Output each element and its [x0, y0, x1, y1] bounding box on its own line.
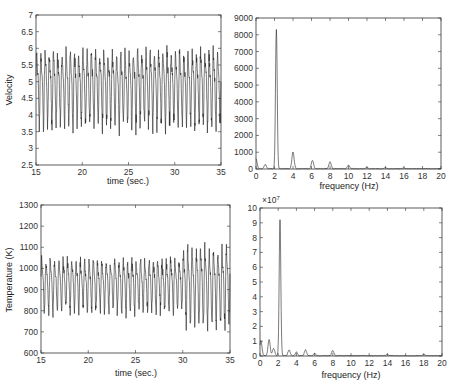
x-tick-label: 18: [419, 358, 429, 368]
y-tick-label: 2000: [234, 130, 253, 140]
y-tick-label: 4.5: [21, 93, 33, 103]
x-tick-label: 4: [294, 358, 299, 368]
x-tick-label: 18: [418, 171, 428, 181]
temperature-spectrum-plot: 02468101214161820012345678910: [248, 203, 447, 368]
x-tick-label: 30: [170, 167, 180, 177]
y-tick-label: 7: [28, 10, 33, 20]
y-tick-label: 7000: [234, 47, 253, 57]
x-tick-label: 6: [312, 358, 317, 368]
temperature-plot: 15202530356007008009001000110012001300: [19, 200, 235, 365]
y-tick-label: 2.5: [21, 160, 33, 170]
y-tick-label: 3: [28, 143, 33, 153]
y-tick-label: 1300: [19, 200, 38, 210]
y-tick-label: 1100: [20, 242, 39, 252]
y-tick-label: 6: [28, 43, 33, 53]
y-tick-label: 2: [252, 321, 257, 331]
x-tick-label: 14: [381, 171, 391, 181]
x-tick-label: 0: [254, 171, 259, 181]
data-line: [36, 45, 221, 136]
y-tick-label: 8000: [234, 30, 253, 40]
x-tick-label: 0: [258, 358, 263, 368]
y-tick-label: 4: [28, 110, 33, 120]
y-tick-label: 900: [24, 285, 38, 295]
y-tick-label: 4: [252, 292, 257, 302]
data-line: [256, 30, 441, 170]
y-tick-label: 5.5: [21, 60, 33, 70]
y-tick-label: 10: [248, 203, 258, 213]
x-tick-label: 35: [216, 167, 226, 177]
y-tick-label: 3.5: [21, 127, 33, 137]
data-line: [41, 242, 230, 331]
x-tick-label: 12: [362, 171, 372, 181]
y-tick-label: 1200: [19, 221, 38, 231]
x-tick-label: 8: [328, 171, 333, 181]
axes-box: [260, 208, 442, 356]
temperature-spectrum-multiplier: ×107: [262, 195, 280, 205]
x-tick-label: 8: [330, 358, 335, 368]
x-tick-label: 25: [131, 355, 141, 365]
y-tick-label: 5000: [234, 80, 253, 90]
figure: 15202530352.533.544.555.566.57 024681012…: [0, 0, 453, 390]
velocity-plot: 15202530352.533.544.555.566.57: [21, 10, 226, 177]
axes-box: [256, 18, 441, 169]
x-tick-label: 20: [78, 167, 88, 177]
x-tick-label: 2: [276, 358, 281, 368]
velocity-spectrum-xlabel: frequency (Hz): [319, 181, 378, 191]
y-tick-label: 9: [252, 218, 257, 228]
y-tick-label: 3: [252, 307, 257, 317]
x-tick-label: 16: [401, 358, 411, 368]
x-tick-label: 6: [309, 171, 314, 181]
velocity-ylabel: Velocity: [4, 74, 14, 106]
y-tick-label: 700: [24, 327, 38, 337]
x-tick-label: 20: [437, 358, 447, 368]
y-tick-label: 0: [248, 164, 253, 174]
y-tick-label: 4000: [234, 97, 253, 107]
y-tick-label: 6000: [234, 63, 253, 73]
y-tick-label: 7: [252, 247, 257, 257]
data-line: [260, 220, 442, 356]
y-tick-label: 6: [252, 262, 257, 272]
x-tick-label: 16: [399, 171, 409, 181]
y-tick-label: 8: [252, 233, 257, 243]
x-tick-label: 4: [291, 171, 296, 181]
y-tick-label: 5: [252, 277, 257, 287]
y-tick-label: 0: [252, 351, 257, 361]
y-tick-label: 3000: [234, 114, 253, 124]
y-tick-label: 600: [24, 348, 38, 358]
y-tick-label: 1: [252, 336, 257, 346]
y-tick-label: 1000: [234, 147, 253, 157]
x-tick-label: 10: [346, 358, 356, 368]
y-tick-label: 1000: [19, 263, 38, 273]
y-tick-label: 5: [28, 77, 33, 87]
x-tick-label: 20: [436, 171, 446, 181]
y-tick-label: 9000: [234, 13, 253, 23]
x-tick-label: 14: [383, 358, 393, 368]
x-tick-label: 2: [272, 171, 277, 181]
x-tick-label: 30: [178, 355, 188, 365]
velocity-xlabel: time (sec.): [107, 176, 149, 186]
x-tick-label: 35: [225, 355, 235, 365]
x-tick-label: 20: [84, 355, 94, 365]
temperature-ylabel: Temperature (K): [4, 247, 14, 312]
x-tick-label: 10: [344, 171, 354, 181]
temperature-xlabel: time (sec.): [115, 368, 157, 378]
temperature-spectrum-xlabel: frequency (Hz): [321, 370, 380, 380]
y-tick-label: 800: [24, 306, 38, 316]
x-tick-label: 12: [364, 358, 374, 368]
y-tick-label: 6.5: [21, 27, 33, 37]
velocity-spectrum-plot: 0246810121416182001000200030004000500060…: [234, 13, 446, 181]
